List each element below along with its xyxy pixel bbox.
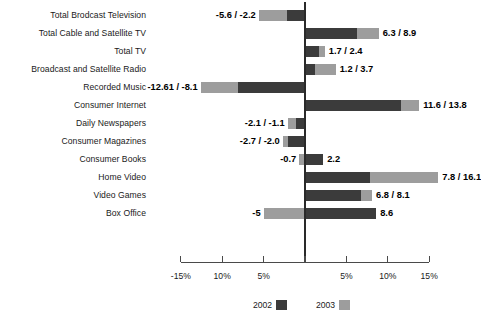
legend-swatch xyxy=(276,300,287,310)
legend-swatch xyxy=(339,300,350,310)
bar-group: -5.6 / -2.2 xyxy=(150,6,481,24)
bar-group: 11.6 / 13.8 xyxy=(150,96,481,114)
chart-row: Recorded Music-12.61 / -8.1 xyxy=(0,78,481,96)
bar-group: -12.61 / -8.1 xyxy=(150,78,481,96)
bar-2003 xyxy=(264,208,305,219)
bar-2002 xyxy=(305,100,401,111)
chart-row: Consumer Books-0.72.2 xyxy=(0,150,481,168)
x-axis-tick xyxy=(263,256,264,262)
value-label: -2.7 / -2.0 xyxy=(120,132,280,150)
value-label: -2.1 / -1.1 xyxy=(125,114,285,132)
bar-group: 1.2 / 3.7 xyxy=(150,60,481,78)
value-label: -12.61 / -8.1 xyxy=(38,78,198,96)
bar-group: -0.72.2 xyxy=(150,150,481,168)
bar-2002 xyxy=(305,172,370,183)
category-label: Total TV xyxy=(0,42,146,60)
bar-group: 6.8 / 8.1 xyxy=(150,186,481,204)
bar-2002 xyxy=(238,82,305,93)
bar-group: 6.3 / 8.9 xyxy=(150,24,481,42)
category-label: Consumer Books xyxy=(0,150,146,168)
x-axis-tick-label: 5% xyxy=(234,270,294,282)
chart-row: Total TV1.7 / 2.4 xyxy=(0,42,481,60)
value-label: -5.6 / -2.2 xyxy=(96,6,256,24)
x-axis-tick xyxy=(304,256,305,262)
category-label: Home Video xyxy=(0,168,146,186)
chart-row: Home Video7.8 / 16.1 xyxy=(0,168,481,186)
category-label: Video Games xyxy=(0,186,146,204)
chart-row: Daily Newspapers-2.1 / -1.1 xyxy=(0,114,481,132)
chart-row: Total Cable and Satellite TV6.3 / 8.9 xyxy=(0,24,481,42)
category-label: Broadcast and Satellite Radio xyxy=(0,60,146,78)
bar-2002 xyxy=(287,10,305,21)
x-axis-tick xyxy=(429,256,430,262)
legend-item-2002[interactable]: 2002 xyxy=(253,296,287,312)
category-label: Consumer Internet xyxy=(0,96,146,114)
x-axis-tick xyxy=(346,256,347,262)
bar-2002 xyxy=(305,154,323,165)
legend-label: 2003 xyxy=(316,300,335,310)
bar-group: 7.8 / 16.1 xyxy=(150,168,481,186)
chart-row: Total Brodcast Television-5.6 / -2.2 xyxy=(0,6,481,24)
x-axis-line xyxy=(181,262,429,263)
chart-container: Total Brodcast Television-5.6 / -2.2Tota… xyxy=(0,0,481,320)
chart-row: Consumer Internet11.6 / 13.8 xyxy=(0,96,481,114)
value-label: 1.2 / 3.7 xyxy=(340,60,374,78)
value-label: -5 xyxy=(101,204,261,222)
value-label: 2.2 xyxy=(327,150,340,168)
bar-group: 1.7 / 2.4 xyxy=(150,42,481,60)
x-axis-tick xyxy=(222,256,223,262)
bar-2002 xyxy=(305,64,315,75)
value-label: -0.7 xyxy=(136,150,296,168)
x-axis-tick xyxy=(387,256,388,262)
bar-2002 xyxy=(305,190,361,201)
plot-area: Total Brodcast Television-5.6 / -2.2Tota… xyxy=(0,0,481,258)
bar-group: -2.7 / -2.0 xyxy=(150,132,481,150)
bar-2002 xyxy=(305,28,357,39)
bar-2002 xyxy=(305,208,376,219)
chart-legend: 20022003 xyxy=(0,296,481,312)
chart-row: Consumer Magazines-2.7 / -2.0 xyxy=(0,132,481,150)
value-label: 8.6 xyxy=(380,204,393,222)
chart-row: Video Games6.8 / 8.1 xyxy=(0,186,481,204)
legend-item-2003[interactable]: 2003 xyxy=(316,296,350,312)
bar-group: -2.1 / -1.1 xyxy=(150,114,481,132)
bar-group: -58.6 xyxy=(150,204,481,222)
value-label: 6.3 / 8.9 xyxy=(383,24,417,42)
legend-label: 2002 xyxy=(253,300,272,310)
bar-2002 xyxy=(305,46,319,57)
bar-2002 xyxy=(288,136,305,147)
category-label: Total Cable and Satellite TV xyxy=(0,24,146,42)
x-axis-tick xyxy=(180,256,181,262)
chart-row: Broadcast and Satellite Radio1.2 / 3.7 xyxy=(0,60,481,78)
x-axis-tick-label: 15% xyxy=(399,270,459,282)
value-label: 1.7 / 2.4 xyxy=(329,42,363,60)
value-label: 7.8 / 16.1 xyxy=(442,168,481,186)
zero-axis-line xyxy=(304,2,306,262)
value-label: 11.6 / 13.8 xyxy=(423,96,466,114)
value-label: 6.8 / 8.1 xyxy=(376,186,410,204)
chart-row: Box Office-58.6 xyxy=(0,204,481,222)
